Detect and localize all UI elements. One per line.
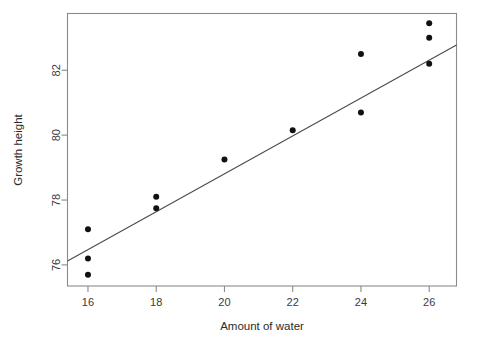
data-point <box>426 61 432 67</box>
y-axis-label: Growth height <box>12 113 24 185</box>
data-point <box>85 255 91 261</box>
y-tick-label: 78 <box>51 194 63 206</box>
data-point <box>358 109 364 115</box>
x-tick-label: 22 <box>287 296 299 308</box>
data-point <box>290 127 296 133</box>
y-tick-label: 80 <box>51 129 63 141</box>
x-tick-label: 16 <box>82 296 94 308</box>
figure-background <box>0 0 477 346</box>
data-point <box>153 194 159 200</box>
scatter-plot-figure: 161820222426 76788082 Amount of water Gr… <box>0 0 477 346</box>
y-tick-label: 82 <box>51 64 63 76</box>
x-axis-label: Amount of water <box>220 320 304 332</box>
data-point <box>153 205 159 211</box>
data-point <box>85 272 91 278</box>
x-tick-label: 26 <box>423 296 435 308</box>
x-tick-label: 20 <box>218 296 230 308</box>
y-tick-label: 76 <box>51 259 63 271</box>
x-tick-label: 24 <box>355 296 367 308</box>
data-point <box>358 51 364 57</box>
data-point <box>221 156 227 162</box>
plot-canvas: 161820222426 76788082 Amount of water Gr… <box>0 0 477 346</box>
data-point <box>85 226 91 232</box>
data-point <box>426 35 432 41</box>
x-tick-label: 18 <box>150 296 162 308</box>
data-point <box>426 20 432 26</box>
